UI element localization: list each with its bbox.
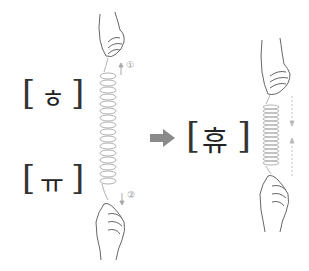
compressed-spring xyxy=(263,95,279,174)
open-bracket: [ xyxy=(186,115,200,156)
close-bracket: ] xyxy=(71,157,84,197)
syllable-hyu: 휴 xyxy=(202,119,228,159)
syllable-yu: ㅠ xyxy=(40,163,64,200)
open-bracket: [ xyxy=(22,72,35,112)
right-bottom-hand-icon xyxy=(260,176,289,233)
bottom-hand-icon xyxy=(96,204,125,261)
top-hand-icon xyxy=(99,12,124,57)
close-bracket: ] xyxy=(71,72,84,112)
syllable-hieut: ㅎ xyxy=(41,78,65,115)
close-bracket: ] xyxy=(237,115,251,156)
right-top-hand-icon xyxy=(261,38,290,95)
marker-1: ① xyxy=(126,60,134,70)
down-arrow-icon xyxy=(120,193,124,205)
diagram-illustration xyxy=(0,0,309,271)
stretched-spring xyxy=(100,58,116,200)
compress-arrows-icon xyxy=(290,96,294,176)
marker-2: ② xyxy=(127,190,135,200)
up-arrow-icon xyxy=(119,63,123,75)
right-arrow-icon xyxy=(150,129,175,147)
open-bracket: [ xyxy=(22,157,35,197)
